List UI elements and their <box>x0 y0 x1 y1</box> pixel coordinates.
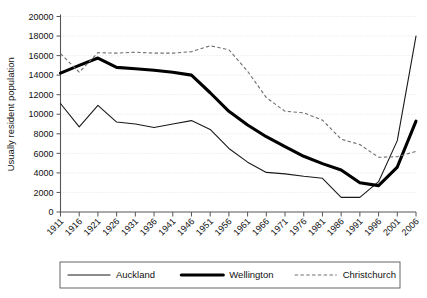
legend-label: Auckland <box>116 269 155 280</box>
x-tick-label: 1926 <box>100 216 121 237</box>
x-tick-label: 1976 <box>287 216 308 237</box>
x-tick-label: 1941 <box>156 216 177 237</box>
y-axis-title: Usually resident population <box>5 57 16 171</box>
y-tick-label: 20000 <box>28 12 53 22</box>
grid-lines <box>61 17 417 193</box>
x-tick-label: 1931 <box>119 216 140 237</box>
x-tick-label: 1916 <box>63 216 84 237</box>
y-tick-label: 12000 <box>28 90 53 100</box>
y-tick-label: 18000 <box>28 31 53 41</box>
y-tick-label: 8000 <box>33 129 53 139</box>
legend-label: Christchurch <box>343 269 396 280</box>
x-axis-ticks: 1911191619211926193119361941194619511956… <box>45 212 421 238</box>
y-tick-label: 0 <box>48 207 53 217</box>
x-tick-label: 1961 <box>231 216 252 237</box>
series-line-christchurch <box>61 46 417 157</box>
x-tick-label: 1991 <box>344 216 365 237</box>
y-tick-label: 4000 <box>33 168 53 178</box>
y-axis-ticks: 0200040006000800010000120001400016000180… <box>28 12 60 218</box>
chart-legend: AucklandWellingtonChristchurch <box>60 262 400 288</box>
x-tick-label: 1951 <box>194 216 215 237</box>
line-chart: 0200040006000800010000120001400016000180… <box>0 0 427 298</box>
series-line-wellington <box>61 58 417 186</box>
x-tick-label: 1911 <box>45 216 66 237</box>
y-tick-label: 2000 <box>33 188 53 198</box>
x-tick-label: 2006 <box>400 216 421 237</box>
x-tick-label: 1996 <box>362 216 383 237</box>
x-tick-label: 1971 <box>269 216 290 237</box>
y-tick-label: 10000 <box>28 109 53 119</box>
y-tick-label: 16000 <box>28 51 53 61</box>
x-tick-label: 1966 <box>250 216 271 237</box>
x-tick-label: 1956 <box>213 216 234 237</box>
x-tick-label: 1921 <box>82 216 103 237</box>
legend-label: Wellington <box>229 269 273 280</box>
x-tick-label: 1981 <box>306 216 327 237</box>
x-tick-label: 1936 <box>138 216 159 237</box>
x-tick-label: 2001 <box>381 216 402 237</box>
y-tick-label: 6000 <box>33 149 53 159</box>
y-tick-label: 14000 <box>28 70 53 80</box>
chart-canvas: 0200040006000800010000120001400016000180… <box>0 0 427 298</box>
x-tick-label: 1946 <box>175 216 196 237</box>
x-tick-label: 1986 <box>325 216 346 237</box>
